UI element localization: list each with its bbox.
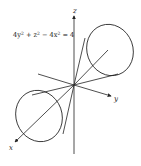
y-axis-label: y xyxy=(113,95,119,103)
negative-y-axis xyxy=(38,74,74,85)
y-axis xyxy=(74,85,111,96)
upper-sheet-generator-1 xyxy=(74,38,85,85)
upper-sheet-ellipse xyxy=(79,18,140,83)
surface-equation: 4y2 + z2 − 4x2 = 4 xyxy=(13,31,74,40)
x-axis-label: x xyxy=(9,144,13,152)
upper-sheet-generator-2 xyxy=(74,74,118,85)
z-axis-label: z xyxy=(72,7,77,15)
lower-sheet-generator-2 xyxy=(63,85,74,134)
x-axis xyxy=(15,85,74,142)
surface-diagram: z y x 4y2 + z2 − 4x2 = 4 xyxy=(0,0,141,166)
negative-x-axis xyxy=(74,50,108,85)
